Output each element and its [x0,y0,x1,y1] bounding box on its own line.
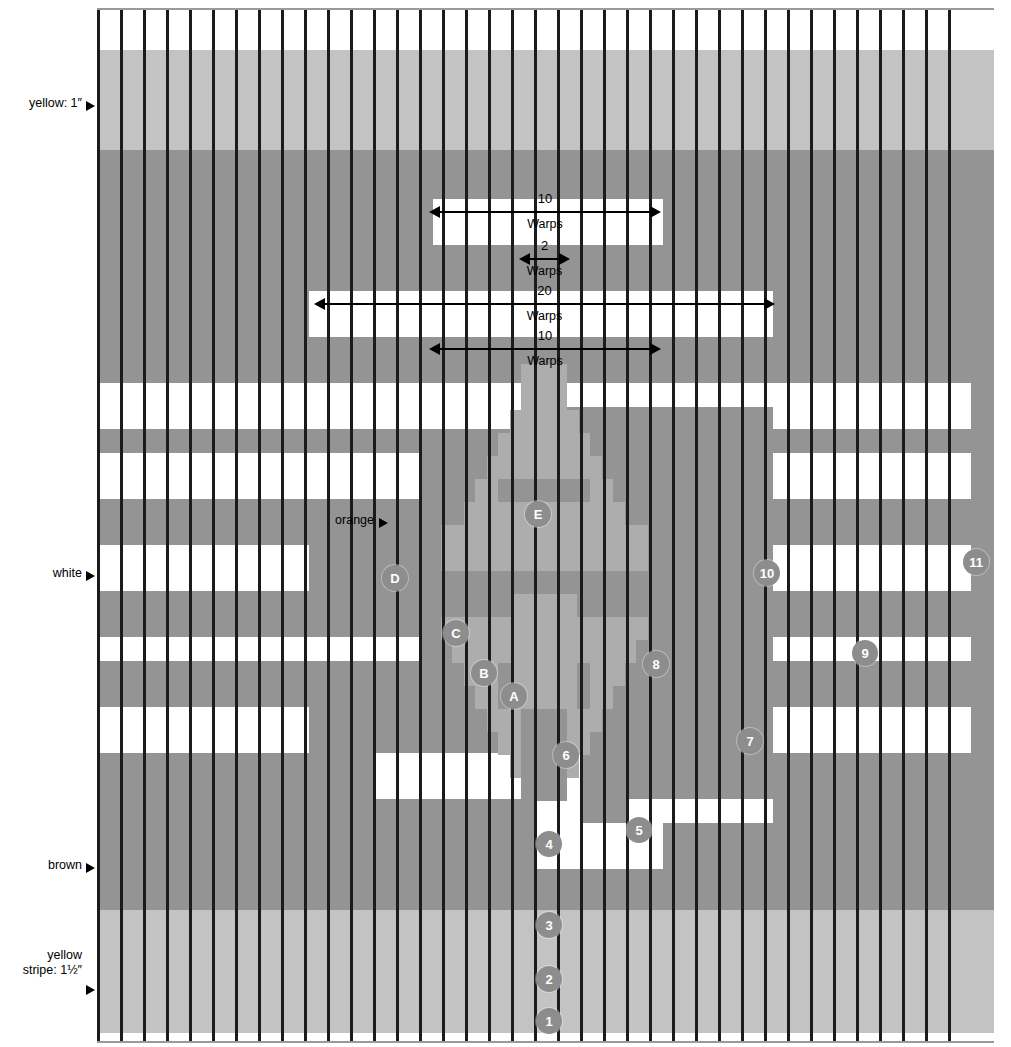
dimension-line [431,211,659,213]
pattern-block [475,617,613,663]
dimension-count: 10 [431,191,659,206]
warp-thread [672,10,675,1041]
dimension-count: 2 [521,238,568,253]
warp-thread [810,10,813,1041]
marker-number-11: 11 [963,549,989,575]
pattern-block [97,707,309,753]
dimension-line [431,348,659,350]
pattern-block [97,383,534,429]
marker-number-8: 8 [643,651,669,677]
band-white-top [97,10,994,50]
marker-number-4: 4 [536,831,562,857]
pattern-block [773,545,971,591]
warp-thread [902,10,905,1041]
arrow-icon [86,101,95,111]
marker-letter-E: E [525,501,551,527]
arrow-icon [86,985,95,995]
band-yellow-top [97,50,994,150]
label-yellow-stripe: yellow stripe: 1½″ [0,948,82,978]
pattern-block [773,707,971,753]
warp-thread [511,10,514,1041]
warp-thread [833,10,836,1041]
marker-letter-C: C [443,620,469,646]
marker-number-3: 3 [536,912,562,938]
marker-number-6: 6 [553,742,579,768]
dimension-unit: Warps [431,354,659,368]
marker-letter-D: D [382,565,408,591]
marker-number-7: 7 [737,728,763,754]
pattern-block [97,823,534,869]
warp-thread [948,10,951,1041]
weaving-draft-diagram: yellow: 1″orangewhitebrownyellow stripe:… [0,0,1011,1047]
dimension-count: 10 [431,328,659,343]
label-orange: orange [0,513,374,528]
marker-number-1: 1 [536,1008,562,1034]
marker-number-5: 5 [626,817,652,843]
warp-thread [557,10,560,1041]
warp-thread [442,10,445,1041]
warp-thread [626,10,629,1041]
dimension-count: 20 [316,283,773,298]
pattern-block [773,383,971,429]
marker-letter-B: B [471,660,497,686]
warp-thread [787,10,790,1041]
warp-thread [465,10,468,1041]
pattern-block [521,387,567,410]
dimension-unit: Warps [316,309,773,323]
warp-thread [488,10,491,1041]
pattern-block [429,571,659,594]
warp-thread [580,10,583,1041]
pattern-block [441,525,648,571]
arrow-icon [86,571,95,581]
warp-thread [419,10,422,1041]
warp-thread [603,10,606,1041]
pattern-block [487,456,602,479]
arrow-icon [379,518,388,528]
dimension-unit: Warps [521,264,568,278]
pattern-block [309,337,419,361]
dimension-line [316,303,773,305]
warp-thread [856,10,859,1041]
pattern-block [510,410,579,433]
pattern-block [564,245,663,269]
warp-thread [718,10,721,1041]
warp-thread [925,10,928,1041]
label-brown: brown [0,858,82,873]
warp-thread [649,10,652,1041]
warp-thread [764,10,767,1041]
pattern-block [97,545,309,591]
dimension-unit: Warps [431,217,659,231]
label-white: white [0,566,82,581]
marker-letter-A: A [501,683,527,709]
arrow-icon [86,863,95,873]
warp-thread [879,10,882,1041]
marker-number-2: 2 [536,966,562,992]
warp-thread [695,10,698,1041]
marker-number-10: 10 [754,560,780,586]
warp-thread [396,10,399,1041]
marker-number-9: 9 [852,640,878,666]
pattern-block [773,453,971,499]
band-white-bottom [97,1033,994,1041]
warp-thread [741,10,744,1041]
label-yellow-top: yellow: 1″ [0,96,82,111]
